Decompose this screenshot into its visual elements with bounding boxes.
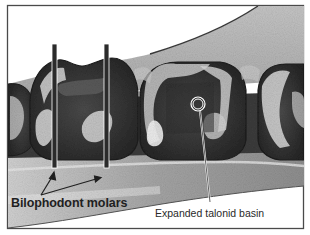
marker-bar-left (52, 44, 57, 168)
bilophodont-molars-label: Bilophodont molars (11, 196, 127, 210)
expanded-talonid-basin-label: Expanded talonid basin (155, 207, 264, 219)
marker-bar-right (104, 44, 109, 168)
